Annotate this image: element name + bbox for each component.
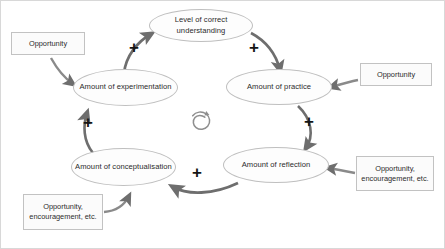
polarity-sign-conceptualisation-experimentation: + (83, 114, 93, 131)
arrow-input-to-practice (331, 80, 358, 87)
external-input-opportunity-encouragement-reflection[interactable]: Opportunity, encouragement, etc. (356, 156, 434, 191)
external-input-label: Opportunity, encouragement, etc. (24, 202, 102, 222)
node-label: Amount of practice (247, 82, 311, 92)
arrow-input-to-conceptualisation (104, 196, 129, 212)
node-label: Amount of experimentation (79, 82, 171, 92)
node-level-of-correct-understanding[interactable]: Level of correct understanding (149, 9, 253, 42)
external-input-opportunity-experimentation[interactable]: Opportunity (11, 32, 85, 55)
polarity-sign-experimentation-understanding: + (129, 39, 139, 56)
diagram-canvas: Level of correct understanding Amount of… (0, 0, 445, 249)
external-input-opportunity-encouragement-conceptualisation[interactable]: Opportunity, encouragement, etc. (23, 194, 103, 230)
node-amount-of-conceptualisation[interactable]: Amount of conceptualisation (71, 148, 176, 186)
node-amount-of-reflection[interactable]: Amount of reflection (223, 147, 329, 183)
arrow-reflection-to-conceptualisation (173, 183, 238, 193)
external-input-label: Opportunity, encouragement, etc. (357, 164, 433, 184)
node-label: Amount of reflection (242, 160, 311, 170)
polarity-sign-understanding-practice: + (249, 39, 259, 56)
polarity-sign-reflection-conceptualisation: + (192, 164, 202, 181)
node-label: Level of correct understanding (150, 15, 252, 35)
polarity-sign-practice-reflection: + (304, 113, 314, 130)
external-input-opportunity-practice[interactable]: Opportunity (360, 63, 432, 86)
external-input-label: Opportunity (377, 70, 415, 80)
spiral-arrow-icon (193, 111, 210, 129)
external-input-label: Opportunity (29, 39, 67, 49)
node-label: Amount of conceptualisation (75, 162, 172, 172)
node-amount-of-experimentation[interactable]: Amount of experimentation (73, 69, 178, 106)
arrow-input-to-reflection (328, 168, 355, 173)
node-amount-of-practice[interactable]: Amount of practice (226, 69, 332, 105)
arrow-input-to-experimentation (51, 58, 73, 84)
